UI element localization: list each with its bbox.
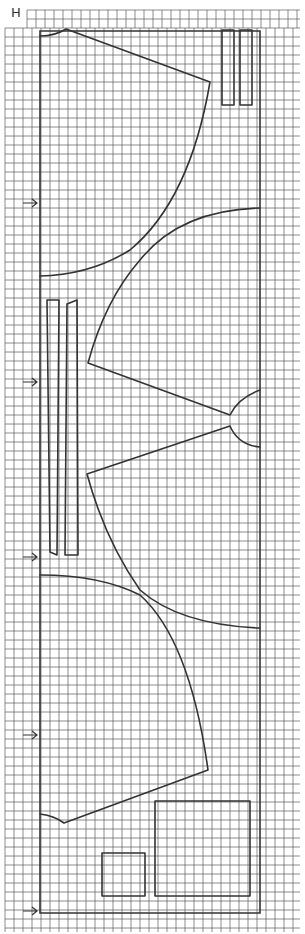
large-square — [155, 801, 250, 896]
upper-bodice-piece — [40, 29, 210, 276]
diagram-label: H — [11, 5, 21, 20]
grain-arrow-icon — [23, 731, 37, 739]
strip-left-1 — [47, 300, 59, 555]
grain-arrow-icon — [23, 553, 37, 561]
strip-left-2 — [65, 300, 78, 555]
strip-top-1 — [222, 30, 234, 105]
grain-arrow-icon — [23, 907, 37, 915]
small-square — [102, 853, 145, 896]
grain-arrow-icon — [23, 199, 37, 207]
pattern-layout-diagram — [0, 0, 305, 934]
grain-arrows — [23, 199, 37, 915]
strip-top-2 — [240, 30, 252, 105]
lower-bodice-piece — [40, 575, 208, 823]
upper-sleeve-piece — [88, 208, 260, 415]
